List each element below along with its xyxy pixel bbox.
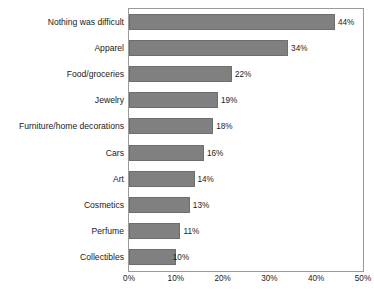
bar	[129, 249, 176, 265]
bar-value-label: 10%	[173, 253, 189, 263]
x-tick-label: 20%	[214, 274, 230, 284]
bar	[129, 145, 204, 161]
bar	[129, 223, 180, 239]
bar-value-label: 13%	[193, 201, 209, 211]
category-label: Nothing was difficult	[0, 17, 124, 27]
category-label: Jewelry	[0, 95, 124, 105]
bar-value-label: 11%	[183, 227, 199, 237]
category-label: Perfume	[0, 226, 124, 236]
x-axis: 0%10%20%30%40%50%	[128, 274, 364, 288]
bar	[129, 197, 190, 213]
bar-value-label: 34%	[291, 44, 307, 54]
bar-value-label: 16%	[207, 149, 223, 159]
bar	[129, 40, 288, 56]
category-label: Food/groceries	[0, 69, 124, 79]
bar	[129, 92, 218, 108]
category-label: Art	[0, 174, 124, 184]
bar-value-label: 44%	[338, 18, 354, 28]
bar-value-label: 18%	[216, 122, 232, 132]
bar	[129, 118, 213, 134]
bar	[129, 14, 335, 30]
bar-chart: Nothing was difficultApparelFood/groceri…	[0, 0, 374, 299]
chart-title	[232, 0, 372, 3]
category-label: Cars	[0, 148, 124, 158]
x-tick-label: 30%	[261, 274, 277, 284]
x-tick-label: 40%	[308, 274, 324, 284]
bar-value-label: 22%	[235, 70, 251, 80]
bars-layer: 44%34%22%19%18%16%14%13%11%10%	[129, 9, 363, 271]
category-label: Furniture/home decorations	[0, 121, 124, 131]
category-label: Cosmetics	[0, 200, 124, 210]
bar	[129, 66, 232, 82]
bar-value-label: 14%	[198, 175, 214, 185]
category-label: Collectibles	[0, 252, 124, 262]
category-label: Apparel	[0, 43, 124, 53]
x-tick-label: 10%	[168, 274, 184, 284]
bar	[129, 171, 195, 187]
bar-value-label: 19%	[221, 96, 237, 106]
x-tick-label: 0%	[123, 274, 135, 284]
x-tick-label: 50%	[355, 274, 371, 284]
category-axis: Nothing was difficultApparelFood/groceri…	[0, 8, 124, 272]
